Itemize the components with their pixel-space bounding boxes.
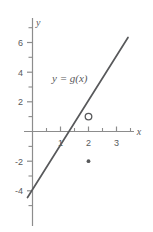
x-tick-label-2: 2 bbox=[86, 138, 91, 148]
x-tick-label-3: 3 bbox=[114, 138, 119, 148]
y-tick-label-neg2: -2 bbox=[15, 157, 23, 167]
filled-dot-point bbox=[87, 159, 91, 163]
x-tick-label-1: 1 bbox=[58, 138, 63, 148]
y-tick-label-6: 6 bbox=[18, 38, 23, 48]
function-line-g bbox=[28, 38, 129, 198]
function-label: y = g(x) bbox=[51, 72, 88, 85]
graph-figure: 6 4 2 -2 -4 1 2 3 y x y = g(x) bbox=[0, 0, 153, 232]
open-circle-point bbox=[85, 113, 92, 120]
y-axis-label: y bbox=[35, 17, 41, 28]
coordinate-plane: 6 4 2 -2 -4 1 2 3 y x y = g(x) bbox=[0, 0, 153, 232]
y-tick-label-2: 2 bbox=[18, 97, 23, 107]
y-tick-label-neg4: -4 bbox=[15, 186, 23, 196]
x-axis-label: x bbox=[136, 126, 142, 137]
y-tick-label-4: 4 bbox=[18, 68, 23, 78]
